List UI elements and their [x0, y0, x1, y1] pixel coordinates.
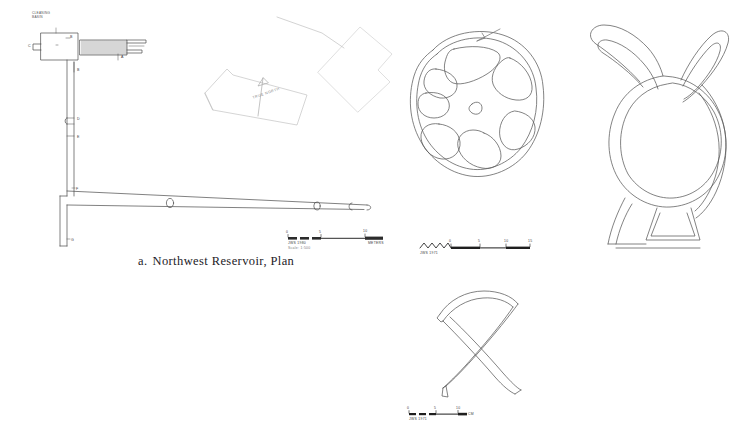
plan-point-label-d: D — [77, 117, 80, 121]
scale-lower-tick-0: 0 — [407, 406, 409, 410]
scale-lower-credit: JWS 1971 — [409, 417, 427, 421]
plate-drawing — [0, 0, 739, 425]
mason-mark-vessel — [591, 25, 729, 248]
scale-upper-tick-5: 5 — [478, 239, 480, 243]
plan-point-label-b1: B — [70, 35, 72, 39]
stair-hatching — [82, 41, 126, 55]
cleaning-basin-outline — [41, 33, 78, 60]
rosette-orientation-arrow — [477, 29, 500, 41]
mason-mark-rosette — [410, 31, 543, 176]
channel-terminus — [367, 205, 371, 210]
scale-bar-plan — [288, 237, 383, 240]
scale-upper-tick-15: 15 — [528, 239, 532, 243]
plan-point-label-b2: B — [77, 68, 79, 72]
scale-lower-tick-5: 5 — [434, 406, 436, 410]
scale-plan-tick-5: 5 — [319, 230, 321, 234]
scale-bar-lower — [409, 413, 467, 416]
plan-point-label-c: C — [28, 44, 31, 48]
plan-point-label-a: A — [121, 55, 123, 59]
scale-bar-plan-ticks — [288, 234, 365, 237]
plan-northwest-reservoir — [33, 28, 371, 246]
figure-caption: a.Northwest Reservoir, Plan — [138, 254, 294, 269]
cleaning-basin-label: CLEANING BASIN — [32, 11, 50, 19]
scale-plan-credit-sub: Scale: 1:500 — [288, 246, 310, 250]
conduit-upper — [127, 40, 146, 43]
conduit-lower — [127, 50, 142, 53]
site-plan-upper-leader — [277, 17, 344, 48]
scale-lower-tick-10: 10 — [456, 406, 460, 410]
scale-plan-unit: METERS — [368, 241, 384, 245]
plan-point-label-g: G — [71, 238, 74, 242]
scale-upper-credit: JWS 1971 — [420, 251, 438, 255]
scale-bar-upper — [451, 247, 530, 249]
scale-bar-upper-ticks — [451, 244, 530, 247]
horizontal-channel-north-wall — [67, 191, 367, 205]
caption-label: a. — [138, 254, 147, 268]
scale-lower-unit: CM — [468, 412, 474, 416]
profile-section-upper — [420, 243, 451, 248]
plan-point-label-e: E — [77, 135, 79, 139]
site-plan-upper — [277, 17, 392, 112]
caption-text: Northwest Reservoir, Plan — [152, 254, 294, 268]
scale-plan-credit: JWS 1980 — [288, 241, 306, 245]
scale-bar-lower-ticks — [409, 410, 458, 413]
scale-plan-tick-10: 10 — [363, 229, 367, 233]
scale-plan-tick-0: 0 — [286, 230, 288, 234]
mason-mark-x — [437, 291, 521, 397]
basin-inlet-notch — [33, 44, 41, 50]
plan-point-label-f: F — [76, 187, 78, 191]
plate-figure: CLEANING BASIN A B B C D E F G TRUE NORT… — [0, 0, 739, 425]
scale-upper-tick-10: 10 — [504, 239, 508, 243]
scale-upper-tick-0: 0 — [449, 239, 451, 243]
